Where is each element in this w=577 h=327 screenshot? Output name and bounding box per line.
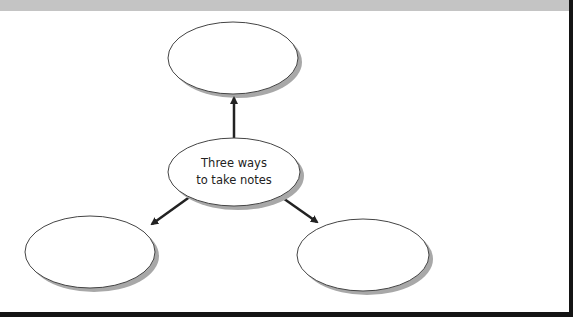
node-bottom-left <box>25 216 159 292</box>
node-bottom-right-ellipse <box>297 219 429 291</box>
node-bottom-left-ellipse <box>25 216 155 288</box>
center-label-line-1: Three ways <box>200 156 267 170</box>
arrow-to-bottom-left <box>152 196 191 224</box>
node-top <box>168 22 302 98</box>
center-label-line-2: to take notes <box>196 173 272 187</box>
node-bottom-right <box>297 219 433 295</box>
arrow-to-bottom-right <box>280 196 317 222</box>
node-top-ellipse <box>168 22 298 94</box>
concept-map: Three ways to take notes <box>0 0 577 327</box>
node-center-ellipse <box>168 138 300 206</box>
